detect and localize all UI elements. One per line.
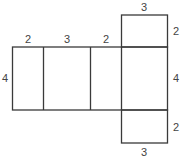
label-bottom-flap-width: 3: [141, 146, 147, 158]
label-top-right-width: 2: [103, 33, 109, 45]
label-top-left-width: 2: [25, 33, 31, 45]
label-top-flap-width: 3: [141, 1, 147, 13]
bottom-flap-face: [122, 110, 168, 143]
label-top-middle-width: 3: [64, 33, 70, 45]
label-left-height: 4: [2, 72, 8, 84]
label-top-flap-height: 2: [173, 25, 179, 37]
prism-net-diagram: 2 3 2 4 3 2 4 2 3: [0, 0, 181, 158]
label-right-height: 4: [173, 72, 179, 84]
top-flap-face: [122, 15, 168, 47]
label-bottom-flap-height: 2: [173, 121, 179, 133]
